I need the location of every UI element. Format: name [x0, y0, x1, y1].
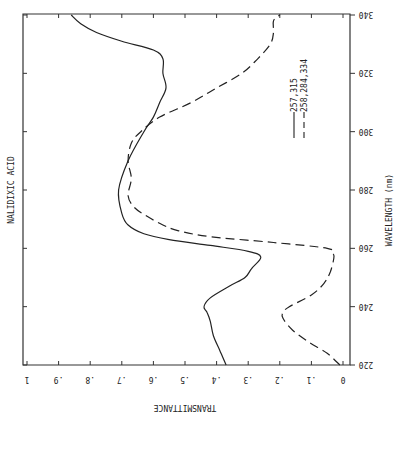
- wavelength-tick-label: 340: [359, 10, 374, 19]
- transmittance-tick-label: .7: [117, 375, 127, 384]
- legend-label: 257,315: [290, 78, 299, 112]
- transmittance-tick-label: .4: [212, 375, 222, 384]
- transmittance-tick-label: .8: [85, 375, 95, 384]
- wavelength-tick-label: 320: [359, 68, 374, 77]
- transmittance-chart: 0.1.2.3.4.5.6.7.8.91 2202402602803003203…: [0, 0, 402, 449]
- transmittance-tick-label: .2: [275, 375, 285, 384]
- wavelength-tick-label: 220: [359, 360, 374, 369]
- wavelength-tick-label: 300: [359, 127, 374, 136]
- transmittance-tick-label: .5: [180, 375, 190, 384]
- transmittance-axis-label: TRANSMITTANCE: [154, 403, 217, 412]
- wavelength-axis-label: WAVELENGTH (nm): [385, 174, 394, 246]
- transmittance-tick-label: 0: [340, 375, 345, 384]
- transmittance-tick-label: .1: [306, 375, 316, 384]
- transmittance-tick-label: .3: [243, 375, 253, 384]
- legend: 257,315258,284,334: [290, 59, 309, 138]
- wavelength-tick-label: 240: [359, 302, 374, 311]
- transmittance-tick-labels: 0.1.2.3.4.5.6.7.8.91: [24, 375, 345, 384]
- chart-title: NALIDIXIC ACID: [7, 156, 16, 224]
- wavelength-tick-labels: 220240260280300320340: [359, 10, 374, 369]
- transmittance-tick-label: .9: [54, 375, 64, 384]
- wavelength-tick-label: 280: [359, 185, 374, 194]
- solid-curve: [71, 15, 261, 365]
- transmittance-tick-label: .6: [148, 375, 158, 384]
- transmittance-tick-label: 1: [24, 375, 29, 384]
- legend-label: 258,284,334: [300, 59, 309, 112]
- wavelength-tick-label: 260: [359, 243, 374, 252]
